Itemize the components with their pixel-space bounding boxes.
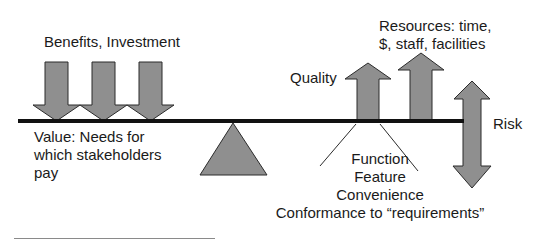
balance-beam — [18, 119, 464, 123]
down-arrow-2 — [80, 62, 127, 121]
quality-up-arrow — [345, 63, 391, 121]
down-arrow-1 — [33, 62, 80, 121]
quality-aspect-convenience: Convenience — [300, 186, 460, 204]
quality-aspect-conformance: Conformance to “requirements” — [245, 204, 515, 222]
value-label-line3: pay — [34, 164, 58, 182]
quality-aspect-function: Function — [300, 150, 460, 168]
quality-label: Quality — [290, 69, 337, 87]
value-label-line2: which stakeholders — [34, 146, 162, 164]
resources-label-line2: $, staff, facilities — [379, 35, 485, 53]
risk-label: Risk — [493, 115, 522, 133]
fulcrum-triangle — [200, 123, 267, 175]
resources-up-arrow — [398, 53, 444, 121]
benefits-label: Benefits, Investment — [44, 33, 180, 51]
quality-aspect-feature: Feature — [300, 168, 460, 186]
down-arrow-3 — [127, 62, 174, 121]
resources-label-line1: Resources: time, — [379, 17, 492, 35]
value-label-line1: Value: Needs for — [34, 128, 145, 146]
